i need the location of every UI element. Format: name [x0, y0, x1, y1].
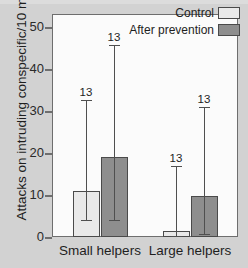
- legend-label-control: Control: [175, 6, 214, 20]
- legend: Control After prevention: [129, 6, 240, 37]
- error-bar-cap-lower: [171, 236, 182, 237]
- y-tick-label-40: 40: [14, 64, 44, 74]
- y-tick-label-10: 10: [14, 190, 44, 200]
- x-tick-label-large-helpers: Large helpers: [130, 243, 248, 258]
- y-axis: [44, 14, 52, 238]
- error-bar-line: [114, 45, 115, 220]
- y-tick-30: [45, 111, 52, 113]
- sample-size-label: 13: [198, 93, 211, 105]
- y-tick-10: [45, 195, 52, 197]
- error-bar-cap-upper: [171, 166, 182, 167]
- legend-swatch-after-prevention: [218, 24, 240, 36]
- error-bar-line: [86, 100, 87, 220]
- y-tick-label-0: 0: [14, 232, 44, 242]
- sample-size-label: 13: [108, 31, 121, 43]
- top-band: [0, 0, 248, 4]
- y-tick-50: [45, 27, 52, 29]
- error-bar-cap-lower: [199, 234, 210, 235]
- y-tick-0: [45, 237, 52, 239]
- error-bar-cap-upper: [199, 107, 210, 108]
- y-tick-40: [45, 69, 52, 71]
- y-tick-label-30: 30: [14, 106, 44, 116]
- error-bar-line: [204, 107, 205, 234]
- legend-item-after-prevention: After prevention: [129, 23, 240, 37]
- error-bar-cap-lower: [81, 220, 92, 221]
- y-tick-20: [45, 153, 52, 155]
- figure-container: Attacks on intruding conspecific/10 min …: [0, 0, 248, 268]
- sample-size-label: 13: [170, 152, 183, 164]
- y-tick-label-20: 20: [14, 148, 44, 158]
- error-bar-line: [176, 166, 177, 237]
- y-tick-label-50: 50: [14, 22, 44, 32]
- legend-swatch-control: [218, 7, 240, 19]
- error-bar-cap-lower: [109, 220, 120, 221]
- error-bar-cap-upper: [109, 45, 120, 46]
- error-bar-cap-upper: [81, 100, 92, 101]
- sample-size-label: 13: [80, 86, 93, 98]
- legend-label-after-prevention: After prevention: [129, 23, 214, 37]
- legend-item-control: Control: [175, 6, 240, 20]
